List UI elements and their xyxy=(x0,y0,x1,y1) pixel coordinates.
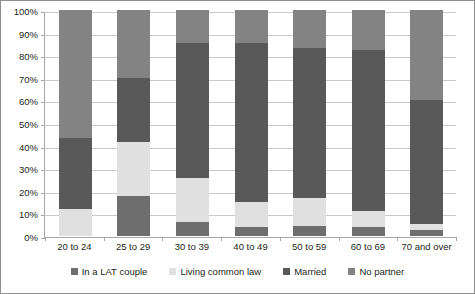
bar-segment-no-partner[interactable] xyxy=(59,10,92,138)
bar-segment-lat-couple[interactable] xyxy=(410,230,443,236)
y-axis-tick-label: 60% xyxy=(0,97,38,107)
y-axis-tick-label: 70% xyxy=(0,75,38,85)
bar-segment-lat-couple[interactable] xyxy=(352,227,385,236)
bar-segment-no-partner[interactable] xyxy=(235,10,268,43)
legend-swatch-lat-couple xyxy=(71,268,78,275)
bar-segment-married[interactable] xyxy=(410,100,443,223)
legend-label: Married xyxy=(294,266,326,277)
y-axis-labels: 100%90%80%70%60%50%40%30%20%10%0% xyxy=(0,12,40,238)
bar-segment-living-common-law[interactable] xyxy=(117,142,150,196)
stacked-bar-chart: 100%90%80%70%60%50%40%30%20%10%0% 20 to … xyxy=(0,0,475,294)
bar-segment-married[interactable] xyxy=(352,50,385,212)
legend-label: In a LAT couple xyxy=(82,266,148,277)
legend-label: Living common law xyxy=(180,266,261,277)
bar-segment-no-partner[interactable] xyxy=(293,10,326,48)
bar-stack[interactable] xyxy=(410,12,443,236)
y-axis-tick-label: 40% xyxy=(0,143,38,153)
bar-stack[interactable] xyxy=(352,12,385,236)
y-axis-tick-label: 20% xyxy=(0,188,38,198)
x-axis-category-label: 30 to 39 xyxy=(162,241,221,253)
bar-segment-married[interactable] xyxy=(59,138,92,209)
y-axis-tick-mark xyxy=(41,170,45,171)
legend-swatch-no-partner xyxy=(348,268,355,275)
legend-swatch-living-common-law xyxy=(169,268,176,275)
bar-segment-no-partner[interactable] xyxy=(352,10,385,50)
x-axis-category-label: 50 to 59 xyxy=(280,241,339,253)
bar-segment-lat-couple[interactable] xyxy=(235,227,268,236)
bar-segment-married[interactable] xyxy=(176,43,209,179)
bar-segment-living-common-law[interactable] xyxy=(352,211,385,227)
y-axis-tick-label: 100% xyxy=(0,7,38,17)
bar-segment-no-partner[interactable] xyxy=(176,10,209,43)
bar-segment-no-partner[interactable] xyxy=(410,10,443,100)
y-axis-tick-mark xyxy=(41,102,45,103)
x-axis-tick-mark xyxy=(456,237,457,241)
plot-area xyxy=(44,12,456,238)
legend-item[interactable]: In a LAT couple xyxy=(71,266,148,277)
bar-stack[interactable] xyxy=(176,12,209,236)
bar-segment-living-common-law[interactable] xyxy=(410,224,443,231)
y-axis-tick-mark xyxy=(41,215,45,216)
legend-item[interactable]: Married xyxy=(283,266,326,277)
y-axis-tick-mark xyxy=(41,80,45,81)
y-axis-tick-mark xyxy=(41,57,45,58)
x-axis-category-label: 60 to 69 xyxy=(339,241,398,253)
y-axis-tick-mark xyxy=(41,148,45,149)
bar-segment-married[interactable] xyxy=(117,78,150,142)
bar-segment-lat-couple[interactable] xyxy=(176,222,209,236)
chart-legend: In a LAT coupleLiving common lawMarriedN… xyxy=(0,266,475,277)
bar-stack[interactable] xyxy=(235,12,268,236)
x-axis-labels: 20 to 2425 to 2930 to 3940 to 4950 to 59… xyxy=(45,241,456,253)
bar-slot xyxy=(339,12,398,236)
bar-segment-living-common-law[interactable] xyxy=(59,209,92,236)
bar-group xyxy=(46,12,456,236)
bar-stack[interactable] xyxy=(117,12,150,236)
bar-stack[interactable] xyxy=(59,12,92,236)
bar-slot xyxy=(163,12,222,236)
bar-slot xyxy=(46,12,105,236)
bar-segment-lat-couple[interactable] xyxy=(293,226,326,236)
legend-item[interactable]: No partner xyxy=(348,266,404,277)
y-axis-tick-label: 80% xyxy=(0,52,38,62)
legend-swatch-married xyxy=(283,268,290,275)
y-axis-tick-mark xyxy=(41,35,45,36)
legend-item[interactable]: Living common law xyxy=(169,266,261,277)
x-axis-category-label: 25 to 29 xyxy=(104,241,163,253)
bar-segment-married[interactable] xyxy=(293,48,326,197)
y-axis-tick-label: 30% xyxy=(0,165,38,175)
bar-slot xyxy=(397,12,456,236)
y-axis-tick-mark xyxy=(41,193,45,194)
y-axis-tick-label: 90% xyxy=(0,30,38,40)
bar-segment-lat-couple[interactable] xyxy=(117,196,150,236)
bar-slot xyxy=(280,12,339,236)
bar-segment-living-common-law[interactable] xyxy=(235,202,268,227)
bar-slot xyxy=(222,12,281,236)
bar-stack[interactable] xyxy=(293,12,326,236)
y-axis-tick-mark xyxy=(41,125,45,126)
bar-segment-living-common-law[interactable] xyxy=(176,178,209,222)
bar-segment-married[interactable] xyxy=(235,43,268,202)
y-axis-tick-mark xyxy=(41,12,45,13)
bar-slot xyxy=(105,12,164,236)
bar-segment-living-common-law[interactable] xyxy=(293,198,326,226)
y-axis-tick-label: 0% xyxy=(0,233,38,243)
y-axis-tick-label: 10% xyxy=(0,210,38,220)
bar-segment-no-partner[interactable] xyxy=(117,10,150,78)
y-axis-tick-label: 50% xyxy=(0,120,38,130)
plot-wrapper xyxy=(44,12,456,238)
x-axis-category-label: 20 to 24 xyxy=(45,241,104,253)
x-axis-category-label: 70 and over xyxy=(397,241,456,253)
x-axis-category-label: 40 to 49 xyxy=(221,241,280,253)
legend-label: No partner xyxy=(359,266,404,277)
